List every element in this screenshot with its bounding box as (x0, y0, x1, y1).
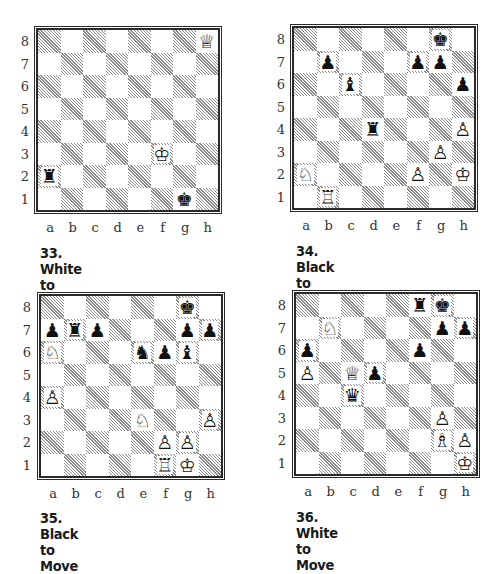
square-c5 (339, 96, 362, 119)
square-e1 (384, 186, 407, 209)
square-c6 (341, 339, 364, 362)
square-d1 (362, 186, 385, 209)
square-f4 (409, 384, 432, 407)
rank-labels: 87654321 (275, 295, 289, 475)
square-f6: ♟ (409, 339, 432, 362)
white-rook-icon: ♖ (156, 454, 173, 476)
diagram-caption: 35. Black to Move (40, 510, 78, 574)
chess-board: ♚♟♜♟♟♟♘♞♟♝♙♘♙♙♙♖♔ (39, 294, 223, 478)
white-bishop-icon: ♗ (434, 429, 451, 451)
square-g4 (431, 384, 454, 407)
square-g2: ♙ (176, 431, 199, 454)
square-f5 (409, 362, 432, 385)
square-b3 (317, 141, 340, 164)
rank-labels: 87654321 (20, 297, 34, 477)
square-g7: ♟ (176, 319, 199, 342)
square-d4 (364, 384, 387, 407)
square-b5 (319, 362, 342, 385)
square-c2 (341, 429, 364, 452)
square-g5 (431, 362, 454, 385)
white-pawn-icon: ♙ (156, 431, 173, 453)
square-b4 (319, 384, 342, 407)
file-label: g (432, 484, 455, 500)
white-knight-icon: ♘ (297, 163, 314, 185)
black-knight-icon: ♞ (134, 341, 151, 363)
square-d8 (362, 28, 385, 51)
square-h4: ♙ (452, 118, 475, 141)
square-b2 (64, 431, 87, 454)
square-h3 (452, 141, 475, 164)
square-d6 (109, 341, 132, 364)
white-pawn-icon: ♙ (434, 407, 451, 429)
black-bishop-icon: ♝ (342, 73, 359, 95)
white-knight-icon: ♘ (44, 341, 61, 363)
square-f4 (154, 386, 177, 409)
square-b8 (317, 28, 340, 51)
black-queen-icon: ♛ (344, 384, 361, 406)
square-h4 (199, 386, 222, 409)
file-label: b (318, 218, 341, 234)
square-h8 (199, 296, 222, 319)
square-g3 (173, 143, 196, 166)
square-f4 (407, 118, 430, 141)
square-b8 (319, 294, 342, 317)
square-h7: ♟ (454, 317, 477, 340)
square-a1 (296, 452, 319, 475)
square-c2 (86, 431, 109, 454)
square-a2 (296, 429, 319, 452)
square-h2 (196, 165, 219, 188)
square-d8 (109, 296, 132, 319)
square-e8 (384, 28, 407, 51)
square-d2 (362, 163, 385, 186)
square-e7 (386, 317, 409, 340)
black-pawn-icon: ♟ (201, 319, 218, 341)
square-e8 (386, 294, 409, 317)
square-e2 (386, 429, 409, 452)
white-queen-icon: ♕ (198, 30, 215, 52)
chess-board: ♕♔♜♚ (36, 28, 220, 212)
file-label: a (297, 484, 320, 500)
file-label: c (84, 220, 107, 236)
square-g1: ♚ (173, 188, 196, 211)
square-g7 (173, 53, 196, 76)
square-f1 (409, 452, 432, 475)
square-c1 (339, 186, 362, 209)
square-c7 (83, 53, 106, 76)
rank-label: 2 (20, 432, 34, 455)
square-h2: ♙ (454, 429, 477, 452)
square-e6: ♞ (131, 341, 154, 364)
rank-label: 7 (275, 318, 289, 341)
square-e2 (384, 163, 407, 186)
square-a5 (38, 98, 61, 121)
square-d6 (106, 75, 129, 98)
square-f2 (409, 429, 432, 452)
square-e1 (128, 188, 151, 211)
file-label: h (455, 484, 478, 500)
white-king-icon: ♔ (454, 163, 471, 185)
square-a8 (41, 296, 64, 319)
square-a1 (41, 454, 64, 477)
square-d8 (106, 30, 129, 53)
square-b3 (319, 407, 342, 430)
square-f5 (407, 96, 430, 119)
square-h1 (199, 454, 222, 477)
square-b8 (64, 296, 87, 319)
square-f8 (407, 28, 430, 51)
file-label: h (197, 220, 220, 236)
square-e5 (386, 362, 409, 385)
square-c3 (341, 407, 364, 430)
square-b2 (319, 429, 342, 452)
rank-label: 4 (275, 385, 289, 408)
square-e4 (384, 118, 407, 141)
square-b7: ♟ (317, 51, 340, 74)
square-e2 (128, 165, 151, 188)
file-labels: abcdefgh (39, 220, 219, 236)
square-f1: ♖ (154, 454, 177, 477)
white-pawn-icon: ♙ (201, 409, 218, 431)
square-c6 (86, 341, 109, 364)
square-a4 (294, 118, 317, 141)
white-pawn-icon: ♙ (44, 386, 61, 408)
square-d8 (364, 294, 387, 317)
square-c7 (341, 317, 364, 340)
square-c5 (83, 98, 106, 121)
